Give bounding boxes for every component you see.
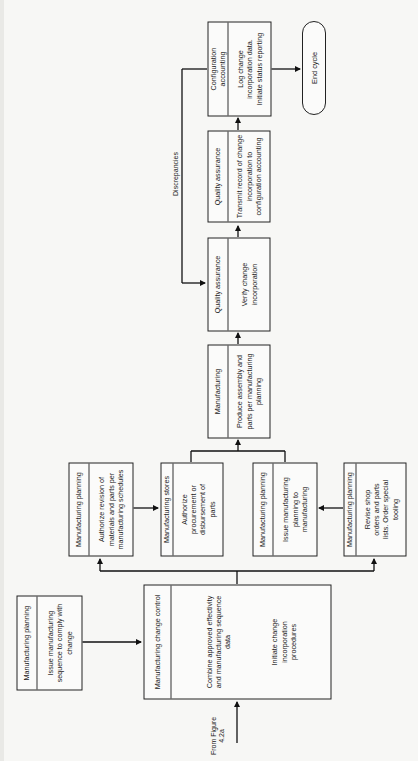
box-mp-revise-shop-orders: Manufacturing planning Revise shop order…: [343, 462, 406, 556]
box-body: Log change incorporation data. Initiate …: [228, 22, 270, 115]
box-header: Quality assurance: [208, 131, 228, 221]
box-body: Revise shop orders and parts lists. Orde…: [356, 463, 405, 555]
box-configuration-accounting: Configuration accounting Log change inco…: [207, 21, 271, 116]
end-cycle-label: End cycle: [302, 21, 326, 115]
box-text: Issue manufacturing sequence to comply w…: [45, 600, 73, 685]
box-text: Issue manufacturing planning to manufact…: [280, 473, 308, 545]
box-header: Quality assurance: [208, 238, 228, 330]
box-header: Configuration accounting: [208, 22, 228, 115]
box-text: Verify change incorporation: [239, 256, 258, 312]
box-text: Revise shop orders and parts lists. Orde…: [362, 479, 399, 539]
box-header: Manufacturing planning: [344, 463, 356, 555]
from-figure-label: From Figure 4.2a: [210, 716, 232, 756]
box-body: Combine approved effectivity and manufac…: [171, 585, 330, 698]
box-header: Manufacturing: [208, 345, 228, 437]
terminal-end-cycle: End cycle: [302, 21, 326, 115]
box-body: Transmit record of change incorporation …: [228, 131, 269, 221]
box-body: Authorize procurement or disbursement of…: [173, 463, 222, 555]
box-text: Initiate change incorporation procedures: [269, 591, 297, 692]
box-text: Log change incorporation data. Initiate …: [235, 32, 263, 105]
box-header: Manufacturing planning: [69, 463, 89, 555]
discrepancies-label: Discrepancies: [172, 144, 182, 204]
box-header: Manufacturing planning: [17, 596, 37, 689]
box-text: Produce assembly and parts per manufactu…: [234, 349, 262, 433]
box-body: Issue manufacturing planning to manufact…: [273, 463, 316, 555]
box-text: Authorize procurement or disbursement of…: [179, 477, 216, 541]
box-mp-issue-sequence: Manufacturing planning Issue manufacturi…: [16, 595, 82, 690]
box-qa-transmit: Quality assurance Transmit record of cha…: [207, 130, 270, 222]
box-header: Manufacturing change control: [144, 585, 171, 698]
box-header: Manufacturing planning: [253, 463, 273, 555]
box-text: Transmit record of change incorporation …: [234, 133, 262, 219]
box-header: Manufacturing stores: [161, 463, 173, 555]
box-qa-verify: Quality assurance Verify change incorpor…: [207, 237, 270, 331]
box-body: Verify change incorporation: [228, 238, 269, 330]
box-manufacturing-change-control: Manufacturing change control Combine app…: [143, 584, 331, 699]
box-text: Authorize revision of materials and part…: [96, 467, 124, 551]
box-text: Combine approved effectivity and manufac…: [204, 591, 232, 692]
box-body: Produce assembly and parts per manufactu…: [228, 345, 269, 437]
box-manufacturing: Manufacturing Produce assembly and parts…: [207, 344, 270, 438]
box-manufacturing-stores: Manufacturing stores Authorize procureme…: [160, 462, 223, 556]
box-mp-issue-planning: Manufacturing planning Issue manufacturi…: [252, 462, 317, 556]
box-body: Issue manufacturing sequence to comply w…: [37, 596, 81, 689]
box-body: Authorize revision of materials and part…: [89, 463, 132, 555]
box-mp-authorize-revision: Manufacturing planning Authorize revisio…: [68, 462, 133, 556]
